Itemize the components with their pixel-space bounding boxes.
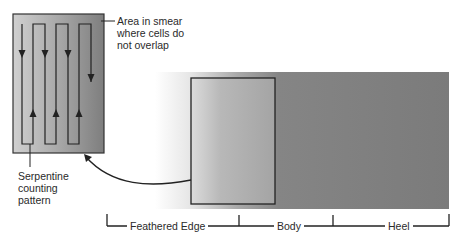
pattern-callout-line2: counting	[18, 182, 69, 194]
area-callout-line1: Area in smear	[117, 15, 184, 27]
region-label-feathered-edge: Feathered Edge	[127, 220, 208, 232]
arrow-head-icon	[84, 154, 92, 162]
non-overlap-area-highlight	[191, 78, 275, 204]
area-callout: Area in smear where cells do not overlap	[117, 15, 184, 51]
region-label-heel: Heel	[385, 220, 413, 232]
pattern-callout-line1: Serpentine	[18, 170, 69, 182]
pattern-callout-line3: pattern	[18, 194, 69, 206]
area-callout-line2: where cells do	[117, 27, 184, 39]
region-label-body: Body	[274, 220, 304, 232]
diagram-canvas	[0, 0, 461, 241]
magnified-inset	[13, 14, 104, 153]
area-callout-line3: not overlap	[117, 39, 184, 51]
pattern-callout: Serpentine counting pattern	[18, 170, 69, 206]
